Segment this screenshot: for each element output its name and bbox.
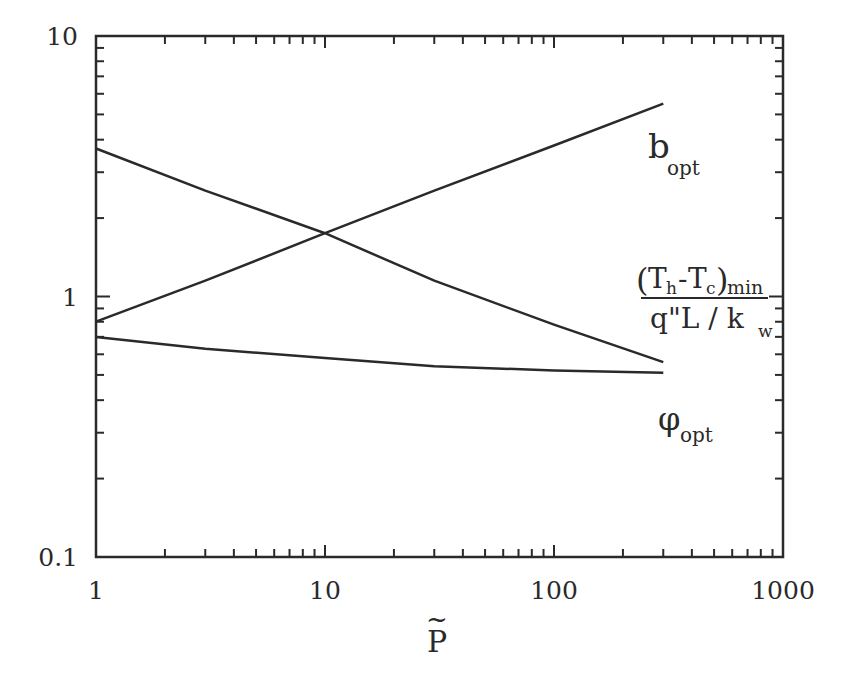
svg-text:w: w xyxy=(758,321,773,341)
y-tick-label: 1 xyxy=(62,283,78,312)
svg-text:T: T xyxy=(688,262,707,295)
axis-ticks xyxy=(96,36,783,557)
svg-text:(: ( xyxy=(636,261,648,299)
y-tick-label: 10 xyxy=(46,22,78,51)
svg-text:φ: φ xyxy=(658,400,680,438)
data-series xyxy=(96,104,663,373)
label-b-opt: b opt xyxy=(648,126,700,180)
y-tick-label: 0.1 xyxy=(38,543,78,572)
svg-text:min: min xyxy=(727,276,763,298)
svg-text:h: h xyxy=(666,278,677,298)
svg-text:opt: opt xyxy=(680,423,713,447)
svg-text:opt: opt xyxy=(667,156,700,180)
svg-text:q"L / k: q"L / k xyxy=(650,302,745,335)
series-line-0 xyxy=(96,104,663,322)
x-tick-label: 1 xyxy=(88,576,104,605)
plot-frame xyxy=(96,36,783,557)
x-tick-label: 10 xyxy=(309,576,341,605)
x-tick-label: 100 xyxy=(530,576,578,605)
svg-text:c: c xyxy=(706,278,716,298)
chart: 11010010000.1110 P ~ b opt ( T h - T c )… xyxy=(0,0,859,695)
svg-text:T: T xyxy=(648,262,667,295)
x-tick-label: 1000 xyxy=(751,576,815,605)
series-line-1 xyxy=(96,149,663,363)
x-axis-title-tilde: ~ xyxy=(426,604,448,634)
label-temperature-ratio: ( T h - T c ) min q"L / k w xyxy=(636,261,773,341)
label-phi-opt: φ opt xyxy=(658,400,713,447)
series-line-2 xyxy=(96,337,663,373)
svg-text:-: - xyxy=(678,262,687,295)
